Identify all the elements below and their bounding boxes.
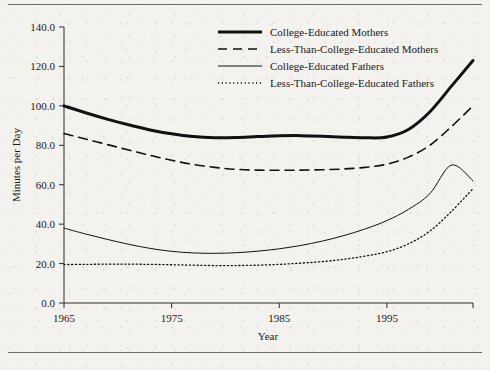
y-axis: 0.020.040.060.080.0100.0120.0140.0 — [30, 21, 64, 309]
x-axis-title: Year — [258, 330, 279, 342]
y-tick-label: 80.0 — [36, 139, 56, 151]
y-tick-label: 20.0 — [36, 258, 56, 270]
chart-legend: College-Educated MothersLess-Than-Colleg… — [218, 26, 438, 89]
y-axis-title: Minutes per Day — [10, 128, 22, 202]
series-line — [64, 189, 473, 266]
series-lines — [64, 61, 473, 266]
line-chart-plot: 0.020.040.060.080.0100.0120.0140.0 19651… — [0, 0, 490, 370]
legend-label: Less-Than-College-Educated Mothers — [270, 43, 438, 55]
x-tick-label: 1975 — [161, 312, 184, 324]
legend-label: College-Educated Fathers — [270, 60, 384, 72]
series-line — [64, 165, 473, 254]
y-tick-label: 100.0 — [30, 100, 55, 112]
x-tick-label: 1985 — [268, 312, 291, 324]
x-tick-label: 1965 — [53, 312, 76, 324]
x-tick-label: 1995 — [376, 312, 399, 324]
x-axis: 1965197519851995 — [53, 303, 473, 324]
series-line — [64, 106, 473, 170]
chart-figure: 0.020.040.060.080.0100.0120.0140.0 19651… — [0, 0, 490, 370]
y-tick-label: 40.0 — [36, 218, 56, 230]
y-tick-label: 0.0 — [41, 297, 55, 309]
legend-label: College-Educated Mothers — [270, 26, 388, 38]
y-tick-label: 140.0 — [30, 21, 55, 33]
series-line — [64, 61, 473, 138]
y-tick-label: 60.0 — [36, 179, 56, 191]
y-tick-label: 120.0 — [30, 60, 55, 72]
legend-label: Less-Than-College-Educated Fathers — [270, 77, 434, 89]
